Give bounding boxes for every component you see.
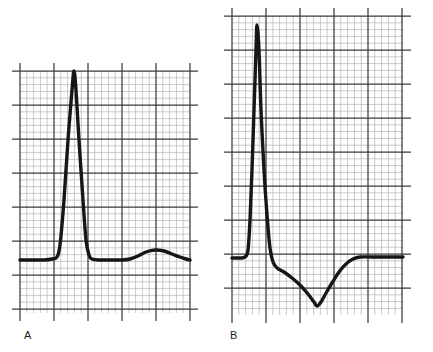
ecg-figure: A B xyxy=(0,0,433,352)
panel-label-b: B xyxy=(230,330,238,341)
grid-major-a xyxy=(12,63,198,321)
grid-minor-b xyxy=(232,16,403,315)
ecg-figure-svg xyxy=(0,0,433,352)
panel-a xyxy=(12,63,198,321)
grid-minor-a xyxy=(20,71,190,313)
panel-label-a: A xyxy=(24,330,32,341)
ecg-trace-a xyxy=(20,71,190,260)
